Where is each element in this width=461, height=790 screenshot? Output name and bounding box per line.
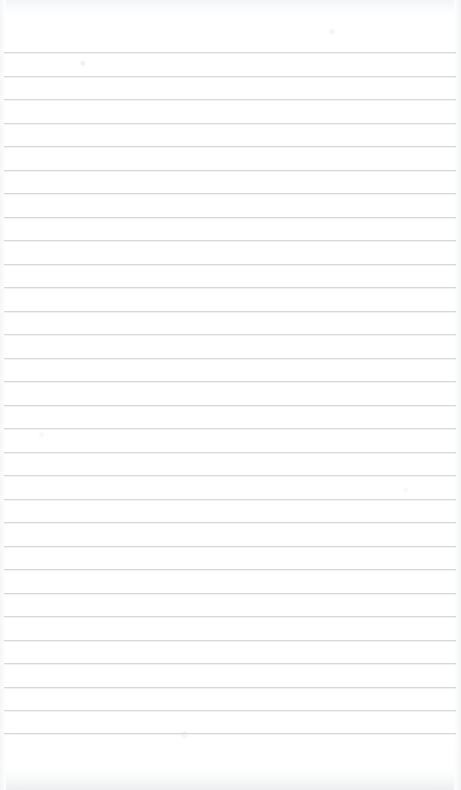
writing-area[interactable] — [4, 52, 456, 734]
notebook-page — [0, 0, 461, 790]
